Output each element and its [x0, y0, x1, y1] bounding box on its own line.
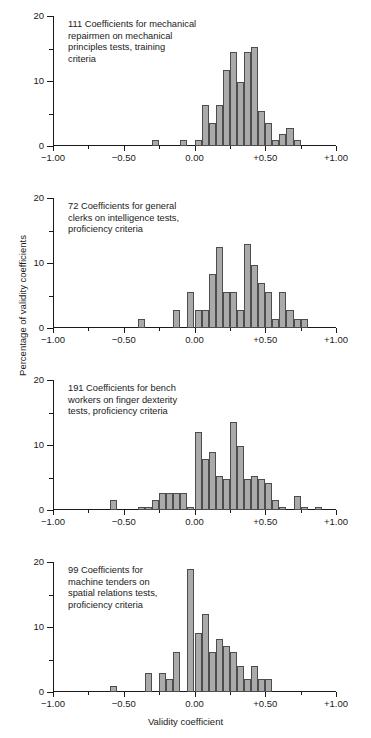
x-tick-label: +1.00: [306, 152, 366, 163]
x-minor-tick-mark: [230, 146, 231, 149]
histogram-bar: [216, 476, 223, 510]
x-tick-mark: [265, 692, 266, 697]
histogram-bar: [195, 310, 202, 328]
y-tick-label: 10: [0, 440, 44, 450]
histogram-bar: [315, 507, 322, 510]
histogram-panel-2: 01020 −1.00−0.500.00+0.50+1.00 72 Coeffi…: [0, 186, 371, 366]
x-minor-tick-mark: [159, 146, 160, 149]
x-axis-label: Validity coefficient: [0, 716, 371, 727]
x-tick-label: +0.50: [235, 698, 295, 709]
x-minor-tick-mark: [301, 692, 302, 695]
histogram-bar: [237, 310, 244, 328]
x-tick-mark: [195, 510, 196, 515]
histogram-bar: [279, 507, 286, 510]
histogram-bar: [265, 123, 272, 146]
histogram-panel-3: 01020 −1.00−0.500.00+0.50+1.00 191 Coeff…: [0, 368, 371, 548]
x-tick-mark: [336, 146, 337, 151]
histogram-bar: [173, 310, 180, 328]
histogram-bar: [173, 652, 180, 692]
y-tick-label: 10: [0, 76, 44, 86]
histogram-panel-4: 01020 −1.00−0.500.00+0.50+1.00 99 Coeffi…: [0, 550, 371, 730]
histogram-bar: [230, 652, 237, 692]
x-tick-label: +0.50: [235, 334, 295, 345]
x-minor-tick-mark: [301, 146, 302, 149]
histogram-bar: [223, 646, 230, 692]
histogram-bar: [159, 493, 166, 510]
histogram-bar: [202, 614, 209, 692]
histogram-bar: [237, 666, 244, 692]
x-tick-mark: [53, 510, 54, 515]
y-tick-label: 20: [0, 11, 44, 21]
y-tick-label: 20: [0, 557, 44, 567]
x-tick-label: −0.50: [94, 698, 154, 709]
histogram-bar: [272, 500, 279, 510]
histogram-bar: [209, 452, 216, 511]
x-tick-mark: [53, 692, 54, 697]
histogram-bar: [279, 292, 286, 328]
y-tick-label: 20: [0, 193, 44, 203]
y-tick-label: 0: [0, 323, 44, 333]
histogram-bar: [223, 70, 230, 146]
histogram-bar: [166, 493, 173, 510]
histogram-bar: [216, 105, 223, 146]
histogram-bar: [223, 292, 230, 328]
histogram-bar: [301, 507, 308, 510]
histogram-bar: [294, 496, 301, 510]
x-tick-label: 0.00: [165, 698, 225, 709]
histogram-bar: [145, 673, 152, 693]
histogram-bar: [152, 140, 159, 147]
histogram-bar: [216, 639, 223, 692]
histogram-bar: [209, 123, 216, 146]
histogram-bar: [230, 52, 237, 146]
x-minor-tick-mark: [301, 510, 302, 513]
histogram-bar: [265, 679, 272, 692]
histogram-bar: [251, 476, 258, 510]
x-minor-tick-mark: [88, 146, 89, 149]
histogram-bar: [237, 446, 244, 510]
x-tick-label: −0.50: [94, 516, 154, 527]
y-tick-label: 10: [0, 258, 44, 268]
histogram-bar: [110, 686, 117, 693]
histogram-bar: [286, 310, 293, 328]
x-minor-tick-mark: [159, 692, 160, 695]
y-tick-label: 0: [0, 141, 44, 151]
histogram-bar: [258, 283, 265, 328]
x-tick-mark: [124, 146, 125, 151]
x-minor-tick-mark: [301, 328, 302, 331]
histogram-bar: [180, 493, 187, 510]
x-tick-label: −1.00: [23, 698, 83, 709]
x-tick-label: +0.50: [235, 516, 295, 527]
histogram-bar: [202, 105, 209, 146]
histogram-bar: [265, 483, 272, 510]
x-tick-mark: [53, 146, 54, 151]
histogram-bar: [187, 292, 194, 328]
x-tick-mark: [124, 692, 125, 697]
histogram-bar: [202, 310, 209, 328]
histogram-panel-1: 01020 −1.00−0.500.00+0.50+1.00 111 Coeff…: [0, 4, 371, 184]
x-minor-tick-mark: [230, 510, 231, 513]
histogram-bar: [187, 507, 194, 510]
x-tick-mark: [265, 328, 266, 333]
histogram-bar: [272, 319, 279, 328]
histogram-bar: [180, 140, 187, 147]
histogram-bar: [301, 319, 308, 328]
x-tick-label: +1.00: [306, 334, 366, 345]
histogram-bar: [251, 47, 258, 146]
x-tick-label: 0.00: [165, 334, 225, 345]
histogram-bar: [230, 422, 237, 510]
histogram-bar: [244, 679, 251, 692]
histogram-bar: [265, 292, 272, 328]
histogram-bar: [138, 507, 145, 510]
histogram-bar: [223, 479, 230, 510]
panel-caption: 191 Coefficients for bench workers on fi…: [68, 383, 248, 418]
histogram-bar: [195, 633, 202, 692]
histogram-bar: [216, 247, 223, 328]
histogram-bar: [166, 679, 173, 692]
histogram-bar: [145, 507, 152, 510]
y-tick-label: 0: [0, 687, 44, 697]
histogram-bar: [152, 500, 159, 510]
histogram-bar: [294, 319, 301, 328]
x-minor-tick-mark: [230, 328, 231, 331]
y-tick-label: 20: [0, 375, 44, 385]
x-minor-tick-mark: [230, 692, 231, 695]
